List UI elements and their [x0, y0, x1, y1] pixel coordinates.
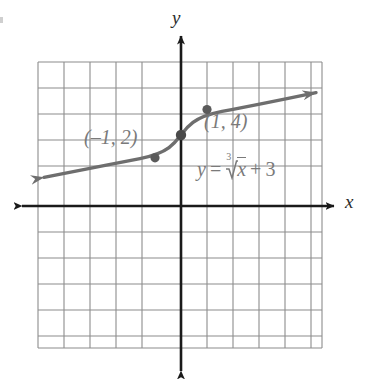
y-axis-label: y — [172, 8, 180, 27]
point-label-1-4: (1, 4) — [204, 111, 247, 131]
radical-index: 3 — [226, 152, 231, 162]
radicand: x — [237, 157, 246, 180]
graph-figure: x y (–1, 2) (1, 4) y = 3x + 3 — [0, 0, 371, 379]
equation-equals: = — [210, 158, 221, 180]
x-axis-label: x — [345, 192, 353, 211]
equation-lhs: y — [197, 158, 206, 180]
data-point-0-3 — [176, 130, 186, 140]
equation-label: y = 3x + 3 — [197, 158, 275, 180]
equation-plus: + — [250, 158, 261, 180]
equation-constant: 3 — [265, 158, 275, 180]
cube-root-radical-icon: 3 — [225, 158, 238, 180]
coordinate-plane — [0, 0, 371, 379]
data-point-minus1-2 — [150, 153, 159, 162]
point-label-minus1-2: (–1, 2) — [84, 127, 137, 147]
